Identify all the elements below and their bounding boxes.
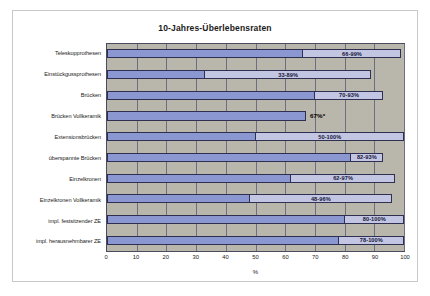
bar-row[interactable]: 62-97% xyxy=(107,168,404,189)
bar-lower-bound[interactable] xyxy=(107,70,205,79)
bar-row[interactable]: 50-100% xyxy=(107,127,404,148)
y-axis-label: Einzelkronen xyxy=(13,168,104,189)
y-axis-label: Einstückgussprothesen xyxy=(13,64,104,85)
chart-title: 10-Jahres-Überlebensraten xyxy=(13,23,417,33)
chart-frame: 10-Jahres-Überlebensraten Teleskopprothe… xyxy=(12,10,418,282)
bar-lower-bound[interactable] xyxy=(107,91,315,100)
bar-value-label: 67%* xyxy=(306,111,399,120)
bar-lower-bound[interactable] xyxy=(107,153,351,162)
gridline-100 xyxy=(404,44,405,251)
x-tick-80: 80 xyxy=(342,254,348,260)
x-tick-60: 60 xyxy=(282,254,288,260)
y-axis-label: Einzelkronen Vollkeramik xyxy=(13,189,104,210)
x-tick-100: 100 xyxy=(400,254,410,260)
x-tick-70: 70 xyxy=(312,254,318,260)
y-axis-label: Extensionsbrücken xyxy=(13,127,104,148)
x-axis-tick-labels: 0102030405060708090100 xyxy=(106,254,405,266)
bar-row[interactable]: 66-99% xyxy=(107,44,404,65)
bar-lower-bound[interactable] xyxy=(107,215,345,224)
x-tick-50: 50 xyxy=(252,254,258,260)
plot-area: 66-99%33-89%70-93%67%*50-100%82-93%62-97… xyxy=(106,43,405,252)
x-tick-20: 20 xyxy=(163,254,169,260)
x-tick-90: 90 xyxy=(372,254,378,260)
bar-lower-bound[interactable] xyxy=(107,194,250,203)
y-axis-label: Teleskopprothesen xyxy=(13,43,104,64)
bar-lower-bound[interactable] xyxy=(107,174,291,183)
y-axis-label: überspannte Brücken xyxy=(13,147,104,168)
x-tick-0: 0 xyxy=(104,254,107,260)
bar-row[interactable]: 78-100% xyxy=(107,230,404,251)
x-tick-30: 30 xyxy=(192,254,198,260)
bar-lower-bound[interactable] xyxy=(107,132,256,141)
bar-row[interactable]: 48-96% xyxy=(107,189,404,210)
bar-lower-bound[interactable] xyxy=(107,111,306,120)
y-axis-label: Brücken Vollkeramik xyxy=(13,106,104,127)
bar-row[interactable]: 70-93% xyxy=(107,85,404,106)
bar-lower-bound[interactable] xyxy=(107,49,303,58)
bar-lower-bound[interactable] xyxy=(107,236,339,245)
x-tick-10: 10 xyxy=(133,254,139,260)
y-axis-label: impl. festsitzender ZE xyxy=(13,210,104,231)
bar-row[interactable]: 33-89% xyxy=(107,65,404,86)
x-tick-40: 40 xyxy=(222,254,228,260)
bar-row[interactable]: 67%* xyxy=(107,106,404,127)
y-axis-category-labels: TeleskopprothesenEinstückgussprothesenBr… xyxy=(13,43,104,252)
bar-row[interactable]: 82-93% xyxy=(107,147,404,168)
bar-row[interactable]: 80-100% xyxy=(107,210,404,231)
x-axis-title: % xyxy=(106,269,405,275)
bar-rows: 66-99%33-89%70-93%67%*50-100%82-93%62-97… xyxy=(107,44,404,251)
y-axis-label: Brücken xyxy=(13,85,104,106)
y-axis-label: impl. herausnehmbarer ZE xyxy=(13,231,104,252)
